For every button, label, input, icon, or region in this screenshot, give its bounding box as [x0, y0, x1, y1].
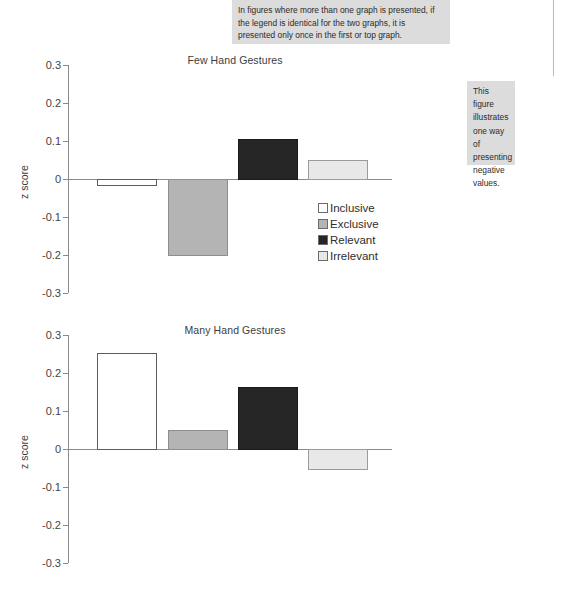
bar-relevant: [238, 139, 298, 180]
y-tick-label: 0.1: [46, 405, 61, 417]
y-tick-mark: [63, 255, 68, 256]
legend-item-inclusive: Inclusive: [318, 200, 428, 216]
legend-swatch-icon: [318, 235, 328, 245]
y-tick-label: -0.3: [42, 287, 61, 299]
y-axis-title: z score: [18, 165, 30, 199]
bar-relevant: [238, 387, 298, 450]
y-tick-label: 0.3: [46, 329, 61, 341]
legend: InclusiveExclusiveRelevantIrrelevant: [318, 200, 428, 264]
y-tick-label: -0.3: [42, 557, 61, 569]
y-tick-label: -0.1: [42, 211, 61, 223]
y-tick-mark: [63, 217, 68, 218]
y-tick-label: -0.1: [42, 481, 61, 493]
y-tick-mark: [63, 487, 68, 488]
legend-item-irrelevant: Irrelevant: [318, 248, 428, 264]
chart-few-hand-gestures: Few Hand Gestures 0.30.20.10-0.1-0.2-0.3…: [0, 52, 440, 310]
y-tick-label: 0.3: [46, 59, 61, 71]
plot-area: 0.30.20.10-0.1-0.2-0.3: [68, 335, 392, 563]
y-tick-mark: [63, 103, 68, 104]
y-tick-mark: [63, 563, 68, 564]
y-axis-title: z score: [18, 435, 30, 469]
legend-swatch-icon: [318, 219, 328, 229]
y-tick-mark: [63, 411, 68, 412]
annotation-callout-right-text: This figure illustrates one way of prese…: [473, 85, 509, 191]
y-tick-mark: [63, 525, 68, 526]
bar-inclusive: [97, 353, 157, 450]
legend-swatch-icon: [318, 203, 328, 213]
y-tick-label: -0.2: [42, 249, 61, 261]
y-tick-mark: [63, 293, 68, 294]
y-tick-mark: [63, 335, 68, 336]
y-tick-mark: [63, 373, 68, 374]
bar-irrelevant: [308, 160, 368, 180]
y-tick-label: 0.1: [46, 135, 61, 147]
y-tick-label: 0: [55, 173, 61, 185]
y-tick-label: 0.2: [46, 367, 61, 379]
legend-swatch-icon: [318, 251, 328, 261]
legend-item-relevant: Relevant: [318, 232, 428, 248]
bar-inclusive: [97, 179, 157, 186]
legend-item-exclusive: Exclusive: [318, 216, 428, 232]
bar-exclusive: [168, 430, 228, 450]
legend-label: Exclusive: [330, 218, 379, 230]
chart-many-hand-gestures: Many Hand Gestures 0.30.20.10-0.1-0.2-0.…: [0, 322, 440, 590]
annotation-callout-right: This figure illustrates one way of prese…: [467, 81, 515, 165]
annotation-callout-top: In figures where more than one graph is …: [232, 0, 450, 44]
legend-label: Irrelevant: [330, 250, 378, 262]
y-tick-mark: [63, 141, 68, 142]
page-edge-rule: [553, 0, 554, 76]
legend-label: Relevant: [330, 234, 375, 246]
bar-exclusive: [168, 179, 228, 256]
legend-label: Inclusive: [330, 202, 375, 214]
y-tick-label: 0: [55, 443, 61, 455]
annotation-callout-top-text: In figures where more than one graph is …: [238, 4, 444, 42]
bar-irrelevant: [308, 449, 368, 470]
y-tick-mark: [63, 65, 68, 66]
y-tick-label: -0.2: [42, 519, 61, 531]
y-tick-label: 0.2: [46, 97, 61, 109]
